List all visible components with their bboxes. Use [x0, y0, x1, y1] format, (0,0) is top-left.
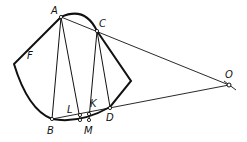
label-D: D: [106, 112, 114, 123]
point-C: [95, 29, 98, 32]
label-B: B: [47, 125, 54, 136]
point-D: [108, 106, 111, 109]
line-AO: [61, 17, 229, 85]
label-C: C: [99, 18, 106, 29]
point-M1: [78, 118, 81, 121]
line-CD: [97, 31, 110, 107]
label-F: F: [27, 50, 33, 61]
point-A: [59, 15, 62, 18]
point-M: [87, 118, 90, 121]
geometry-diagram: A C F O B L K M D: [0, 0, 247, 142]
point-O: [227, 83, 231, 87]
label-M: M: [84, 125, 93, 136]
point-L: [78, 113, 81, 116]
label-L: L: [67, 104, 73, 115]
label-A: A: [50, 5, 58, 16]
label-O: O: [225, 69, 233, 80]
diagram-canvas: A C F O B L K M D: [0, 0, 247, 142]
point-B: [50, 117, 53, 120]
line-AB: [52, 17, 61, 119]
label-K: K: [90, 98, 98, 109]
point-K: [87, 112, 90, 115]
